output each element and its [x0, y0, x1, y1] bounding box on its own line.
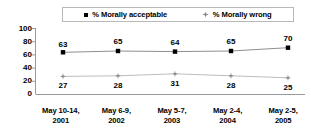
- data-label-acceptable-2003: 64: [162, 39, 188, 47]
- x-axis-label-2004: May 2-4, 2004: [200, 106, 256, 134]
- x-axis-labels: May 10-14, 2001 May 6-9, 2002 May 5-7, 2…: [33, 106, 311, 134]
- x-axis-label-2005-line2: 2005: [255, 116, 311, 126]
- x-axis-label-2003-line1: May 5-7,: [144, 106, 200, 116]
- x-axis-label-2004-line1: May 2-4,: [200, 106, 256, 116]
- x-axis-label-2003: May 5-7, 2003: [144, 106, 200, 134]
- x-axis-label-2003-line2: 2003: [144, 116, 200, 126]
- x-axis-label-2004-line2: 2004: [200, 116, 256, 126]
- x-axis-label-2001-line1: May 10-14,: [33, 106, 89, 116]
- data-label-wrong-2004: 28: [218, 82, 244, 90]
- chart-container: % Morally acceptable % Morally wrong 100…: [0, 0, 311, 135]
- x-axis-label-2001: May 10-14, 2001: [33, 106, 89, 134]
- x-axis-label-2002-line2: 2002: [89, 116, 145, 126]
- data-label-acceptable-2005: 70: [275, 35, 301, 43]
- data-label-acceptable-2004: 65: [218, 38, 244, 46]
- data-label-wrong-2001: 27: [50, 82, 76, 90]
- data-label-wrong-2003: 31: [162, 80, 188, 88]
- x-axis-label-2005-line1: May 2-5,: [255, 106, 311, 116]
- x-axis-label-2001-line2: 2001: [33, 116, 89, 126]
- x-axis-label-2002-line1: May 6-9,: [89, 106, 145, 116]
- data-label-acceptable-2001: 63: [50, 41, 76, 49]
- x-axis-label-2002: May 6-9, 2002: [89, 106, 145, 134]
- data-label-wrong-2005: 25: [275, 84, 301, 92]
- data-label-acceptable-2002: 65: [105, 38, 131, 46]
- x-axis-label-2005: May 2-5, 2005: [255, 106, 311, 134]
- data-label-wrong-2002: 28: [105, 82, 131, 90]
